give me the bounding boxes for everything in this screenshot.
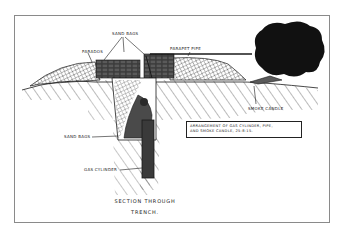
label-parados: Parados	[82, 49, 103, 54]
smoke-candle	[250, 76, 282, 84]
label-smoke-candle: Smoke candle	[248, 106, 284, 111]
label-parapet-pipe: Parapet pipe	[170, 46, 201, 51]
label-sand-bags-side: Sand bags	[64, 134, 90, 139]
smoke-cloud	[255, 21, 325, 76]
sand-bags-parados	[96, 60, 140, 78]
gas-cylinder	[142, 120, 154, 178]
note-line-2: and smoke candle, 25-8-15.	[190, 129, 298, 134]
label-sand-bags-top: Sand bags	[112, 31, 138, 36]
label-gas-cylinder: Gas cylinder	[84, 167, 117, 172]
caption-line-1: Section Through	[110, 198, 180, 204]
caption-line-2: Trench.	[110, 209, 180, 215]
parapet-mound	[170, 58, 246, 80]
arrangement-note: Arrangement of gas cylinder, pipe, and s…	[186, 121, 302, 138]
